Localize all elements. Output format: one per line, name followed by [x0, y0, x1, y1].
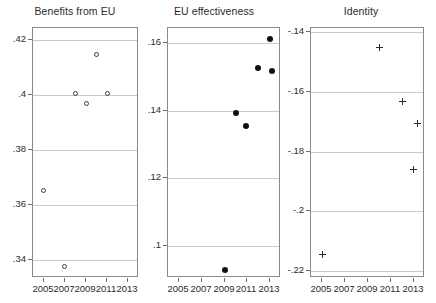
x-tick-mark [344, 278, 345, 282]
data-point [414, 120, 421, 127]
x-tick-mark [413, 278, 414, 282]
x-tick-mark [390, 278, 391, 282]
gridline-horizontal [311, 152, 423, 153]
data-point [222, 267, 228, 273]
panel-title: EU effectiveness [145, 5, 283, 17]
gridline-horizontal [168, 111, 279, 112]
x-tick-mark [64, 278, 65, 282]
y-tick-mark [306, 210, 310, 211]
gridline-horizontal [33, 40, 137, 41]
data-point [41, 188, 46, 193]
plot-area [167, 27, 280, 277]
y-tick-label: .16 [131, 37, 161, 47]
gridline-horizontal [33, 205, 137, 206]
data-point [376, 44, 383, 51]
panel-title: Identity [288, 5, 434, 17]
data-point [233, 110, 239, 116]
y-tick-mark [28, 259, 32, 260]
data-point [410, 166, 417, 173]
x-tick-mark [321, 278, 322, 282]
x-tick-mark [106, 278, 107, 282]
data-point [269, 68, 275, 74]
data-point [243, 123, 249, 129]
y-tick-mark [306, 151, 310, 152]
x-tick-mark [178, 278, 179, 282]
plot-area [310, 27, 424, 277]
x-tick-mark [201, 278, 202, 282]
y-tick-label: .36 [0, 199, 26, 209]
x-tick-label: 2013 [254, 284, 284, 294]
y-tick-mark [163, 177, 167, 178]
x-tick-mark [85, 278, 86, 282]
y-tick-label: -.2 [274, 205, 304, 215]
y-tick-mark [163, 110, 167, 111]
data-point [267, 36, 273, 42]
y-tick-mark [306, 91, 310, 92]
data-point [255, 65, 261, 71]
y-tick-label: -.22 [274, 265, 304, 275]
y-tick-label: .12 [131, 172, 161, 182]
x-tick-mark [43, 278, 44, 282]
gridline-horizontal [33, 260, 137, 261]
data-point [319, 251, 326, 258]
x-tick-mark [127, 278, 128, 282]
gridline-horizontal [33, 150, 137, 151]
gridline-horizontal [311, 92, 423, 93]
y-tick-mark [28, 204, 32, 205]
y-tick-label: -.16 [274, 86, 304, 96]
x-tick-label: 2013 [398, 284, 428, 294]
data-point [94, 52, 99, 57]
x-tick-mark [269, 278, 270, 282]
y-tick-mark [163, 245, 167, 246]
y-tick-mark [28, 39, 32, 40]
y-tick-label: .4 [0, 89, 26, 99]
plot-area [32, 27, 138, 277]
y-tick-mark [163, 42, 167, 43]
x-tick-mark [224, 278, 225, 282]
x-tick-mark [367, 278, 368, 282]
y-tick-label: .38 [0, 144, 26, 154]
gridline-horizontal [311, 211, 423, 212]
gridline-horizontal [311, 32, 423, 33]
data-point [62, 264, 67, 269]
gridline-horizontal [168, 246, 279, 247]
data-point [73, 91, 78, 96]
y-tick-label: .42 [0, 34, 26, 44]
y-tick-label: -.14 [274, 26, 304, 36]
gridline-horizontal [168, 43, 279, 44]
chart-panel-2: EU effectiveness.1.12.14.162005200720092… [145, 0, 283, 303]
x-tick-mark [246, 278, 247, 282]
chart-panel-3: Identity-.22-.2-.18-.16-.142005200720092… [288, 0, 434, 303]
y-tick-label: .14 [131, 105, 161, 115]
y-tick-mark [28, 149, 32, 150]
y-tick-label: -.18 [274, 146, 304, 156]
chart-panel-1: Benefits from EU.34.36.38.4.422005200720… [8, 0, 142, 303]
y-tick-label: .1 [131, 240, 161, 250]
gridline-horizontal [168, 178, 279, 179]
panel-title: Benefits from EU [8, 5, 142, 17]
y-tick-mark [306, 270, 310, 271]
y-tick-mark [306, 31, 310, 32]
scatter-panel-figure: Benefits from EU.34.36.38.4.422005200720… [0, 0, 436, 303]
data-point [84, 101, 89, 106]
data-point [399, 98, 406, 105]
x-tick-label: 2013 [112, 284, 142, 294]
y-tick-label: .34 [0, 254, 26, 264]
gridline-horizontal [33, 95, 137, 96]
gridline-horizontal [311, 271, 423, 272]
y-tick-mark [28, 94, 32, 95]
